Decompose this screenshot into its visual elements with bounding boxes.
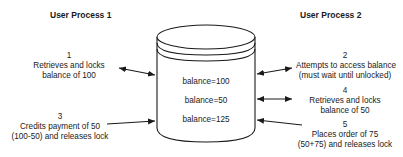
process1-step3: 3 Credits payment of 50 (100-50) and rel… <box>10 112 110 142</box>
step-text: (50+75) and releases lock <box>292 140 398 150</box>
balance-value-2: balance=50 <box>156 96 256 105</box>
step-number: 4 <box>296 86 394 96</box>
step-number: 3 <box>10 112 110 122</box>
step-text: Retrieves and locks <box>296 96 394 106</box>
step-text: Credits payment of 50 <box>10 122 110 132</box>
step-number: 5 <box>292 120 398 130</box>
step-text: balance of 50 <box>296 106 394 116</box>
arrow-step2 <box>257 68 292 74</box>
step-text: Retrieves and locks <box>20 61 118 71</box>
step-text: Places order of 75 <box>292 130 398 140</box>
process2-step4: 4 Retrieves and locks balance of 50 <box>296 86 394 116</box>
arrow-step1 <box>119 68 155 75</box>
arrow-step3 <box>107 121 155 124</box>
process2-title: User Process 2 <box>300 10 361 20</box>
step-text: (must wait until unlocked) <box>296 71 394 81</box>
step-text: (100-50) and releases lock <box>10 132 110 142</box>
process2-step5: 5 Places order of 75 (50+75) and release… <box>292 120 398 150</box>
process1-step1: 1 Retrieves and locks balance of 100 <box>20 51 118 81</box>
step-text: Attempts to access balance <box>296 61 394 71</box>
step-number: 1 <box>20 51 118 61</box>
process1-title: User Process 1 <box>50 10 111 20</box>
process2-step2: 2 Attempts to access balance (must wait … <box>296 51 394 81</box>
step-number: 2 <box>296 51 394 61</box>
balance-value-1: balance=100 <box>156 77 256 86</box>
balance-value-3: balance=125 <box>156 115 256 124</box>
step-text: balance of 100 <box>20 71 118 81</box>
